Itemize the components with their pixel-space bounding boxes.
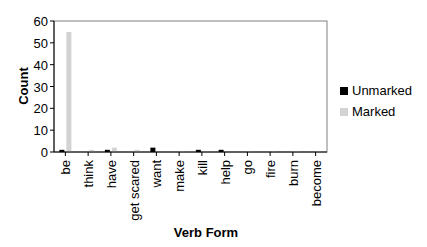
x-tick-label: make	[172, 160, 187, 192]
x-tick-label: kill	[195, 160, 210, 175]
x-tick-label: have	[104, 160, 119, 188]
x-tick-label: burn	[286, 160, 301, 186]
bar-marked	[66, 32, 71, 152]
x-axis-title: Verb Form	[174, 225, 238, 240]
y-tick-label: 40	[34, 58, 48, 73]
bar-unmarked	[150, 148, 155, 152]
legend-label-marked: Marked	[352, 104, 395, 119]
x-axis: bethinkhaveget scaredwantmakekillhelpgof…	[54, 152, 327, 221]
x-tick-label: help	[218, 160, 233, 185]
y-tick-label: 30	[34, 80, 48, 95]
y-tick-label: 50	[34, 36, 48, 51]
x-tick-label: fire	[263, 160, 278, 178]
y-axis-title: Count	[16, 67, 31, 105]
x-tick-label: get scared	[127, 160, 142, 221]
bar-marked	[112, 148, 117, 152]
x-tick-label: go	[240, 160, 255, 174]
legend-label-unmarked: Unmarked	[352, 83, 412, 98]
y-tick-label: 10	[34, 123, 48, 138]
bars	[59, 32, 321, 152]
legend-item-unmarked: Unmarked	[340, 80, 412, 101]
x-tick-label: want	[149, 160, 164, 189]
y-tick-label: 20	[34, 101, 48, 116]
legend-item-marked: Marked	[340, 101, 412, 122]
plot-area	[54, 21, 327, 152]
y-tick-label: 60	[34, 14, 48, 29]
plot-frame	[54, 21, 327, 152]
x-tick-label: become	[309, 160, 324, 206]
legend-swatch-marked	[340, 108, 348, 116]
y-axis: 0102030405060	[34, 14, 54, 160]
x-tick-label: be	[58, 160, 73, 174]
bar-chart: 0102030405060 bethinkhaveget scaredwantm…	[0, 0, 427, 247]
y-tick-label: 0	[41, 145, 48, 160]
x-tick-label: think	[81, 160, 96, 188]
legend: Unmarked Marked	[340, 80, 412, 122]
legend-swatch-unmarked	[340, 87, 348, 95]
